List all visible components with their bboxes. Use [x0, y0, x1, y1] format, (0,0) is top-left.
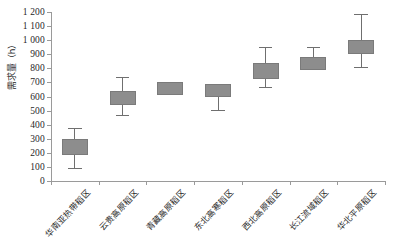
- upper-whisker-stem: [265, 47, 266, 62]
- y-tick-mark: [47, 26, 51, 27]
- y-tick-label: 500: [30, 106, 45, 116]
- x-tick-mark: [146, 181, 147, 185]
- y-tick-label: 1 000: [23, 35, 45, 45]
- box-whisker-2: [110, 12, 136, 181]
- y-tick-mark: [47, 68, 51, 69]
- lower-whisker-stem: [218, 97, 219, 110]
- x-tick-mark: [99, 181, 100, 185]
- y-tick-mark: [47, 97, 51, 98]
- y-tick-label: 400: [30, 120, 45, 130]
- box-whisker-6: [300, 12, 326, 181]
- box-whisker-4: [205, 12, 231, 181]
- upper-whisker-cap: [68, 128, 82, 129]
- y-axis-line: [51, 12, 52, 182]
- y-tick-mark: [47, 40, 51, 41]
- y-tick-mark: [47, 12, 51, 13]
- x-axis-line: [51, 181, 385, 182]
- box-rect: [205, 84, 231, 97]
- x-tick-mark: [51, 181, 52, 185]
- box-whisker-1: [62, 12, 88, 181]
- y-tick-label: 300: [30, 134, 45, 144]
- y-tick-mark: [47, 139, 51, 140]
- upper-whisker-cap: [259, 47, 273, 48]
- box-whisker-7: [348, 12, 374, 181]
- lower-whisker-stem: [265, 79, 266, 87]
- lower-whisker-stem: [74, 155, 75, 168]
- upper-whisker-cap: [116, 77, 130, 78]
- box-rect: [157, 82, 183, 95]
- y-tick-label: 1 200: [23, 7, 45, 17]
- lower-whisker-cap: [68, 168, 82, 169]
- x-tick-mark: [194, 181, 195, 185]
- x-tick-mark: [290, 181, 291, 185]
- y-tick-label: 900: [30, 49, 45, 59]
- upper-whisker-stem: [313, 47, 314, 57]
- plot-area: 01002003004005006007008009001 0001 1001 …: [51, 12, 385, 181]
- y-tick-label: 1 100: [23, 21, 45, 31]
- upper-whisker-stem: [361, 14, 362, 40]
- box-plot-chart: 需求量（h） 01002003004005006007008009001 000…: [0, 0, 393, 247]
- upper-whisker-cap: [354, 14, 368, 15]
- lower-whisker-cap: [116, 115, 130, 116]
- box-rect: [300, 57, 326, 70]
- upper-whisker-cap: [307, 47, 321, 48]
- box-rect: [110, 91, 136, 105]
- lower-whisker-stem: [361, 54, 362, 67]
- y-tick-mark: [47, 54, 51, 55]
- upper-whisker-stem: [122, 77, 123, 90]
- y-tick-label: 200: [30, 148, 45, 158]
- lower-whisker-cap: [354, 67, 368, 68]
- y-tick-mark: [47, 125, 51, 126]
- y-tick-label: 700: [30, 77, 45, 87]
- box-rect: [253, 63, 279, 79]
- y-tick-label: 800: [30, 63, 45, 73]
- y-tick-label: 0: [40, 176, 45, 186]
- box-rect: [62, 139, 88, 155]
- y-axis-title: 需求量（h）: [5, 15, 19, 115]
- y-tick-label: 100: [30, 162, 45, 172]
- y-tick-mark: [47, 153, 51, 154]
- upper-whisker-stem: [74, 128, 75, 139]
- box-whisker-3: [157, 12, 183, 181]
- lower-whisker-cap: [211, 110, 225, 111]
- x-tick-mark: [337, 181, 338, 185]
- y-tick-mark: [47, 167, 51, 168]
- x-tick-mark: [385, 181, 386, 185]
- y-tick-mark: [47, 82, 51, 83]
- box-rect: [348, 40, 374, 53]
- lower-whisker-cap: [259, 87, 273, 88]
- x-category-label-1: 华南亚热带稻区: [16, 186, 93, 247]
- lower-whisker-stem: [122, 105, 123, 115]
- x-tick-mark: [242, 181, 243, 185]
- box-whisker-5: [253, 12, 279, 181]
- y-tick-label: 600: [30, 92, 45, 102]
- y-tick-mark: [47, 111, 51, 112]
